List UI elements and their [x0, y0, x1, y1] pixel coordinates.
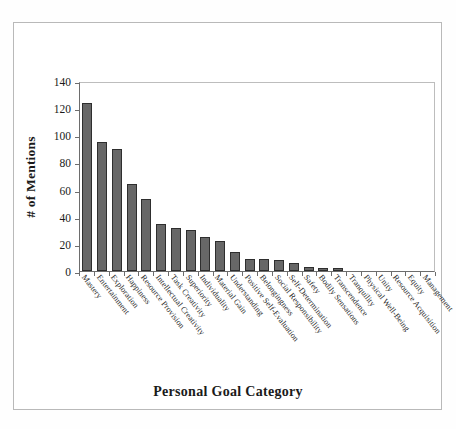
bar [112, 149, 122, 271]
bar-slot [272, 83, 287, 271]
y-axis-tick-label: 60 [60, 185, 72, 197]
bar [127, 184, 137, 271]
bar-slot [110, 83, 125, 271]
y-axis-tick-label: 80 [60, 157, 72, 169]
x-axis-title: Personal Goal Category [0, 384, 456, 400]
bar-series [80, 83, 434, 271]
x-axis-tick-labels: MasteryEntertainmentExplorationHappiness… [79, 273, 435, 373]
plot-area [79, 82, 435, 272]
bar-slot [301, 83, 316, 271]
bar [97, 142, 107, 271]
bar-slot [257, 83, 272, 271]
y-axis-tick-label: 40 [60, 212, 72, 224]
y-axis-tick-label: 140 [54, 76, 71, 88]
y-axis-title-text: # of Mentions [23, 136, 39, 217]
bar-slot [346, 83, 361, 271]
bar-slot [228, 83, 243, 271]
bar-slot [405, 83, 420, 271]
bar-slot [124, 83, 139, 271]
bar [289, 263, 299, 271]
bar-slot [419, 83, 434, 271]
bar-slot [198, 83, 213, 271]
bar-slot [95, 83, 110, 271]
bar-slot [375, 83, 390, 271]
bar-slot [80, 83, 95, 271]
y-axis-tick-label: 0 [65, 266, 71, 278]
bar-slot [331, 83, 346, 271]
y-axis-tick-label: 100 [54, 130, 71, 142]
bar-slot [139, 83, 154, 271]
bar-slot [287, 83, 302, 271]
bar-slot [154, 83, 169, 271]
bar-slot [242, 83, 257, 271]
bar [333, 268, 343, 271]
bar [245, 259, 255, 271]
bar-slot [183, 83, 198, 271]
y-axis-title: # of Mentions [20, 112, 42, 242]
figure: # of Mentions 020406080100120140 Mastery… [0, 0, 456, 429]
bar [230, 252, 240, 271]
x-axis-tick [435, 272, 436, 276]
bar-slot [390, 83, 405, 271]
bar-slot [213, 83, 228, 271]
bar-slot [360, 83, 375, 271]
bar [304, 267, 314, 271]
bar [215, 241, 225, 271]
bar [82, 103, 92, 271]
bar [318, 268, 328, 271]
bar [200, 237, 210, 271]
bar [186, 230, 196, 271]
y-axis-tick-label: 120 [54, 103, 71, 115]
bar [259, 259, 269, 271]
y-axis-tick-label: 20 [60, 239, 72, 251]
bar [156, 224, 166, 272]
bar-slot [169, 83, 184, 271]
bar [274, 260, 284, 271]
bar-slot [316, 83, 331, 271]
bar [171, 228, 181, 271]
bar [141, 199, 151, 271]
